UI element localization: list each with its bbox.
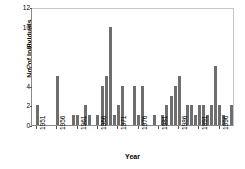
bar-1995 (214, 66, 217, 125)
bar-1969 (109, 27, 112, 125)
y-axis-tick-10: 10 (16, 25, 30, 31)
x-axis-tickmark (97, 126, 98, 129)
x-axis-tick-1966: 1966 (100, 116, 107, 130)
y-axis-tick-0: 0 (16, 123, 30, 129)
y-axis-tickmark (30, 28, 32, 29)
x-axis-tick-1976: 1976 (141, 116, 148, 130)
x-axis-tickmark (56, 126, 57, 129)
y-axis-tick-labels: 024681012 (14, 0, 30, 169)
x-axis-tick-1951: 1951 (39, 116, 46, 130)
x-axis-tickmark (117, 126, 118, 129)
bar-1990 (194, 115, 197, 125)
bar-1984 (170, 96, 173, 126)
y-axis-tickmark (30, 106, 32, 107)
bar-1961 (76, 115, 79, 125)
bar-1989 (190, 105, 193, 125)
x-axis-tick-1981: 1981 (161, 116, 168, 130)
y-axis-tickmark (30, 8, 32, 9)
bar-1970 (113, 115, 116, 125)
x-axis-tick-1996: 1996 (222, 116, 229, 130)
y-axis-tick-12: 12 (16, 5, 30, 11)
x-axis-tick-1991: 1991 (201, 116, 208, 130)
y-axis-tickmark (30, 47, 32, 48)
plot-area (31, 8, 234, 126)
x-axis-tick-1956: 1956 (59, 116, 66, 130)
bar-1975 (133, 86, 136, 125)
x-axis-tickmark (158, 126, 159, 129)
y-axis-tick-2: 2 (16, 103, 30, 109)
x-axis-tick-1961: 1961 (80, 116, 87, 130)
y-axis-tickmark (30, 87, 32, 88)
bar-chart-figure: No. of Individuals 024681012 Year 195119… (0, 0, 245, 169)
x-axis-label: Year (31, 153, 234, 160)
x-axis-tick-1986: 1986 (181, 116, 188, 130)
bar-1960 (72, 115, 75, 125)
bar-1966 (96, 115, 99, 125)
x-axis-tickmark (77, 126, 78, 129)
bar-1980 (153, 115, 156, 125)
y-axis-tickmark (30, 67, 32, 68)
y-axis-tick-8: 8 (16, 44, 30, 50)
bar-1994 (210, 105, 213, 125)
y-axis-tick-6: 6 (16, 64, 30, 70)
x-axis-tickmark (36, 126, 37, 129)
bar-1985 (174, 86, 177, 125)
bar-1964 (88, 115, 91, 125)
y-axis-tickmark (30, 126, 32, 127)
x-axis-tick-1971: 1971 (120, 116, 127, 130)
bar-series (32, 9, 233, 125)
x-axis-tickmark (178, 126, 179, 129)
y-axis-tick-4: 4 (16, 84, 30, 90)
bar-1976 (137, 115, 140, 125)
x-axis-tickmark (219, 126, 220, 129)
x-axis-tickmark (138, 126, 139, 129)
bar-1999 (230, 105, 233, 125)
x-axis-tickmark (198, 126, 199, 129)
bar-1996 (218, 105, 221, 125)
